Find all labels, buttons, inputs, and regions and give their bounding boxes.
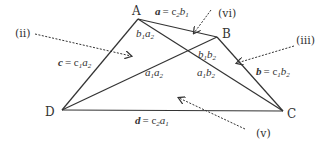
pointer-label-vi: (vi): [218, 7, 236, 20]
region-label-b1b2: b1b2: [198, 48, 217, 62]
side-a-label: a= c2b1: [155, 5, 189, 19]
pointer-label-v: (v): [256, 127, 271, 140]
region-label-a1a2: a1a2: [145, 66, 164, 80]
pointer-vi-arrow: [194, 10, 211, 33]
side-d-label: d= c2a1: [135, 114, 169, 128]
side-b-label: b= c1b2: [256, 65, 290, 79]
pointer-label-iii: (iii): [296, 34, 315, 47]
vertex-label-b: B: [222, 27, 231, 41]
vertex-label-a: A: [131, 4, 141, 18]
pointer-iii-arrow: [237, 46, 294, 63]
vertex-label-d: D: [45, 105, 55, 119]
pointer-v-arrow: [179, 98, 245, 129]
pointer-label-ii: (ii): [15, 27, 31, 40]
vertex-label-c: C: [287, 107, 296, 121]
side-c-label: c= c1a2: [58, 56, 92, 70]
diagonal-bd: [62, 37, 217, 110]
quadrilateral-diagram: A B C D a= c2b1 b= c1b2 c= c1a2 d= c2a1 …: [0, 0, 327, 145]
region-label-b1a2: b1a2: [136, 27, 155, 41]
side-d: [62, 110, 283, 111]
region-label-a1b2: a1b2: [197, 66, 216, 80]
